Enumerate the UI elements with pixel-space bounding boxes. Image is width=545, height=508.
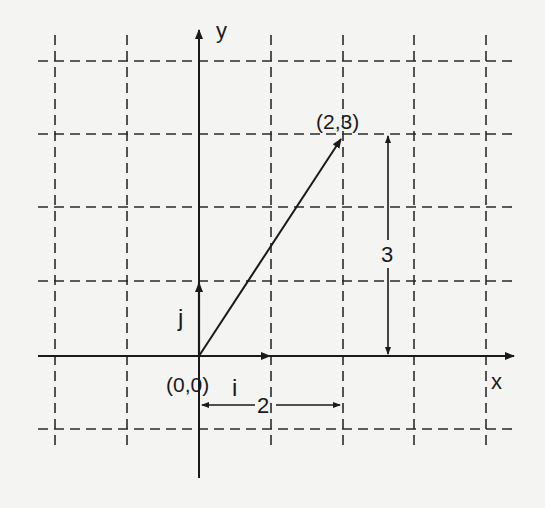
grid: [38, 35, 512, 450]
dimension-label-3: 3: [381, 242, 393, 267]
vertical-dimension: 3: [381, 136, 393, 354]
origin-label: (0,0): [166, 373, 209, 396]
dimension-label-2: 2: [257, 393, 269, 418]
i-label: i: [232, 374, 237, 401]
x-axis-label: x: [491, 369, 502, 394]
point-label: (2,3): [316, 110, 359, 133]
y-axis-label: y: [216, 18, 227, 43]
vector-2-3: [199, 139, 341, 356]
horizontal-dimension: 2: [199, 382, 340, 478]
vector-diagram: x y i j (0,0) (2,3) 3 2: [0, 0, 545, 508]
j-label: j: [177, 304, 183, 331]
